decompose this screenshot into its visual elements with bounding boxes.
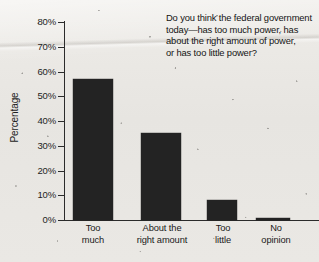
bar-about-the-right-amount bbox=[141, 133, 181, 220]
y-tick-label: 60% bbox=[0, 66, 56, 77]
y-tick-label: 0% bbox=[0, 214, 56, 225]
chart-page: Percentage 80%70%60%50%40%30%20%10%0% To… bbox=[0, 0, 319, 262]
survey-question-text: Do you think the federal governmenttoday… bbox=[166, 12, 316, 58]
bar-too-little bbox=[207, 200, 237, 220]
y-tick-label: 20% bbox=[0, 165, 56, 176]
y-tick-label: 40% bbox=[0, 115, 56, 126]
y-tick-mark bbox=[58, 220, 64, 221]
x-label-line: Too bbox=[198, 223, 248, 235]
y-tick-mark bbox=[58, 96, 64, 97]
y-tick-mark bbox=[58, 47, 64, 48]
x-label-about-the-right-amount: About theright amount bbox=[126, 223, 198, 246]
y-tick-label: 70% bbox=[0, 41, 56, 52]
y-tick-mark bbox=[58, 146, 64, 147]
question-line: or has too little power? bbox=[166, 47, 316, 59]
y-tick-mark bbox=[58, 195, 64, 196]
y-axis-line bbox=[64, 21, 65, 221]
x-label-line: little bbox=[198, 235, 248, 247]
x-label-line: right amount bbox=[126, 235, 198, 247]
x-label-too-little: Toolittle bbox=[198, 223, 248, 246]
x-label-too-much: Toomuch bbox=[60, 223, 126, 246]
x-label-no-opinion: Noopinion bbox=[248, 223, 304, 246]
bar-too-much bbox=[73, 79, 113, 220]
x-label-line: opinion bbox=[248, 235, 304, 247]
y-tick-mark bbox=[58, 22, 64, 23]
question-line: today—has too much power, has bbox=[166, 24, 316, 36]
y-tick-label: 10% bbox=[0, 189, 56, 200]
x-label-line: About the bbox=[126, 223, 198, 235]
x-label-line: Too bbox=[60, 223, 126, 235]
question-line: about the right amount of power, bbox=[166, 35, 316, 47]
y-tick-label: 50% bbox=[0, 90, 56, 101]
y-tick-mark bbox=[58, 121, 64, 122]
x-label-line: No bbox=[248, 223, 304, 235]
bar-no-opinion bbox=[256, 218, 290, 220]
y-tick-label: 80% bbox=[0, 16, 56, 27]
x-label-line: much bbox=[60, 235, 126, 247]
y-tick-mark bbox=[58, 171, 64, 172]
y-tick-mark bbox=[58, 72, 64, 73]
question-line: Do you think the federal government bbox=[166, 12, 316, 24]
y-tick-label: 30% bbox=[0, 140, 56, 151]
